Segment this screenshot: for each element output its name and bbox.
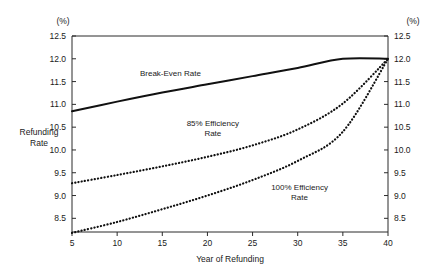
x-tick-label: 20 <box>203 238 213 248</box>
y-tick-label-right: 12.5 <box>394 31 411 41</box>
annotation-group: Break-Even Rate85% EfficiencyRate100% Ef… <box>140 69 328 202</box>
y-tick-label-left: 9.0 <box>54 191 66 201</box>
y-tick-label-right: 12.0 <box>394 54 411 64</box>
y-tick-label-right: 10.5 <box>394 122 411 132</box>
series-line-100-efficiency-rate <box>72 59 388 233</box>
series-group <box>72 58 388 233</box>
x-tick-label: 5 <box>70 238 75 248</box>
y-tick-label-left: 9.5 <box>54 168 66 178</box>
y-tick-label-right: 9.0 <box>394 191 406 201</box>
chart-figure: 510152025303540 8.59.09.510.010.511.011.… <box>0 0 439 278</box>
y-tick-label-right: 10.0 <box>394 145 411 155</box>
refunding-rate-line-chart: 510152025303540 8.59.09.510.010.511.011.… <box>0 0 439 278</box>
y-tick-label-left: 12.0 <box>49 54 66 64</box>
x-tick-label: 40 <box>383 238 393 248</box>
plot-frame <box>72 36 388 232</box>
right-unit-label: (%) <box>406 16 419 26</box>
series-line-break-even-rate <box>72 58 388 111</box>
y-tick-label-right: 11.5 <box>394 77 410 87</box>
y-tick-label-right: 11.0 <box>394 99 410 109</box>
y-tick-label-right: 9.5 <box>394 168 406 178</box>
x-axis-ticks: 510152025303540 <box>70 232 393 248</box>
left-unit-label: (%) <box>56 16 69 26</box>
annotation-eff85-line1: 85% Efficiency <box>187 119 239 128</box>
y-axis-title-line1: Refunding <box>20 127 59 137</box>
x-tick-label: 35 <box>338 238 348 248</box>
y-tick-label-left: 12.5 <box>49 31 66 41</box>
x-tick-label: 25 <box>248 238 258 248</box>
x-tick-label: 10 <box>112 238 122 248</box>
y-tick-label-left: 11.5 <box>50 77 66 87</box>
y-tick-label-left: 11.0 <box>50 99 66 109</box>
y-tick-label-left: 10.0 <box>49 145 66 155</box>
x-tick-label: 15 <box>158 238 168 248</box>
y-axis-title-line2: Rate <box>30 138 48 148</box>
annotation-eff85-line2: Rate <box>204 129 221 138</box>
annotation-eff100-line1: 100% Efficiency <box>271 183 328 192</box>
annotation-break-even: Break-Even Rate <box>140 69 201 78</box>
x-tick-label: 30 <box>293 238 303 248</box>
y-tick-label-left: 8.5 <box>54 213 66 223</box>
annotation-eff100-line2: Rate <box>291 193 308 202</box>
x-axis-title: Year of Refunding <box>196 254 264 264</box>
y-tick-label-right: 8.5 <box>394 213 406 223</box>
